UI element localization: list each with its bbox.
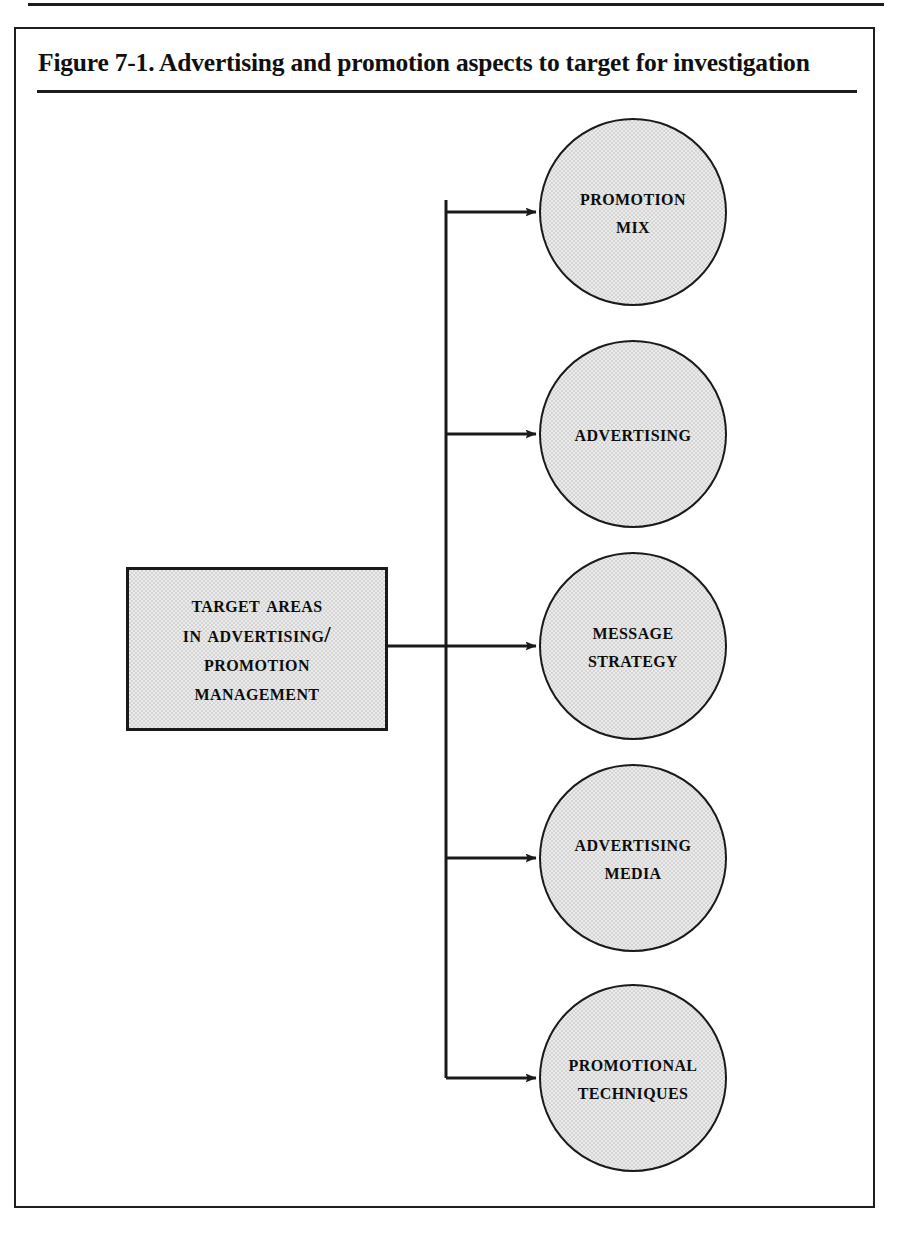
node-promotional-techniques[interactable]: Promotional Techniques: [539, 984, 727, 1172]
node-target-areas-label: Target Areas in Advertising/ Promotion M…: [173, 590, 341, 708]
node-label-line: Media: [575, 858, 692, 886]
node-advertising-media[interactable]: Advertising Media: [539, 764, 727, 952]
node-label-line: Target Areas: [183, 590, 331, 619]
node-label-line: Advertising: [575, 420, 692, 448]
node-promotion-mix[interactable]: Promotion Mix: [539, 118, 727, 306]
node-label-line: Promotional: [569, 1050, 698, 1078]
node-label-line: Techniques: [569, 1078, 698, 1106]
node-target-areas[interactable]: Target Areas in Advertising/ Promotion M…: [126, 567, 388, 731]
node-advertising-media-label: Advertising Media: [565, 830, 702, 886]
node-promotion-mix-label: Promotion Mix: [570, 184, 696, 240]
figure-title-rule: [37, 90, 857, 93]
figure-title: Figure 7-1. Advertising and promotion as…: [38, 48, 856, 78]
node-label-line: Promotion: [183, 649, 331, 678]
node-label-line: Promotion: [580, 184, 686, 212]
node-label-line: Advertising: [575, 830, 692, 858]
node-label-line: Message: [588, 618, 678, 646]
page-top-rule: [28, 3, 884, 6]
node-advertising-label: Advertising: [565, 420, 702, 448]
figure-page: Figure 7-1. Advertising and promotion as…: [0, 0, 901, 1243]
node-message-strategy-label: Message Strategy: [578, 618, 688, 674]
node-label-line: Mix: [580, 212, 686, 240]
node-label-line: Strategy: [588, 646, 678, 674]
node-promotional-techniques-label: Promotional Techniques: [559, 1050, 708, 1106]
node-advertising[interactable]: Advertising: [539, 340, 727, 528]
node-label-line: in Advertising/: [183, 620, 331, 649]
node-message-strategy[interactable]: Message Strategy: [539, 552, 727, 740]
node-label-line: Management: [183, 678, 331, 707]
